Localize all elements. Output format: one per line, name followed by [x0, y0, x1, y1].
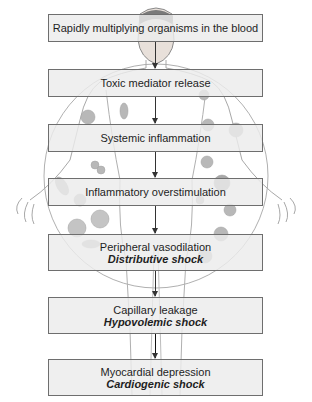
arrow-down-icon: [155, 152, 156, 177]
step-systemic-inflammation: Systemic inflammation: [48, 124, 263, 152]
step-label: Rapidly multiplying organisms in the blo…: [53, 22, 258, 34]
step-label: Capillary leakage: [113, 304, 197, 316]
arrow-down-icon: [155, 334, 156, 358]
step-label: Toxic mediator release: [100, 77, 210, 89]
step-label: Inflammatory overstimulation: [85, 186, 226, 198]
step-peripheral-vasodilation: Peripheral vasodilation Distributive sho…: [48, 234, 263, 271]
shock-type-label: Cardiogenic shock: [106, 378, 204, 390]
arrow-down-icon: [155, 42, 156, 68]
step-organisms-in-blood: Rapidly multiplying organisms in the blo…: [48, 14, 263, 42]
shock-type-label: Hypovolemic shock: [104, 316, 207, 328]
step-label: Systemic inflammation: [100, 132, 210, 144]
arrow-down-icon: [155, 271, 156, 296]
arrow-down-icon: [155, 97, 156, 123]
shock-type-label: Distributive shock: [108, 253, 203, 265]
step-capillary-leakage: Capillary leakage Hypovolemic shock: [48, 297, 263, 334]
flow-diagram: Rapidly multiplying organisms in the blo…: [0, 0, 312, 402]
step-myocardial-depression: Myocardial depression Cardiogenic shock: [48, 359, 263, 396]
step-toxic-mediator-release: Toxic mediator release: [48, 69, 263, 97]
arrow-down-icon: [155, 206, 156, 233]
step-inflammatory-overstimulation: Inflammatory overstimulation: [48, 178, 263, 206]
step-label: Peripheral vasodilation: [100, 241, 211, 253]
step-label: Myocardial depression: [100, 366, 210, 378]
